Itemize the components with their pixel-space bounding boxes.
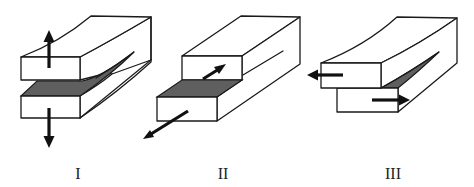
- mode-i-figure: [21, 16, 151, 148]
- mode-ii-label: II: [218, 165, 229, 182]
- mode-ii-lower-front-face: [157, 97, 217, 121]
- fracture-modes-diagram: I II III: [0, 0, 474, 187]
- mode-iii-label: III: [385, 165, 401, 182]
- mode-i-label: I: [75, 165, 80, 182]
- mode-ii-figure: [143, 16, 300, 139]
- mode-iii-figure: [307, 17, 457, 112]
- mode-ii-upper-front-face: [182, 56, 242, 80]
